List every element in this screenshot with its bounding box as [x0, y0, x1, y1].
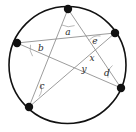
angle-label-b: b	[38, 43, 44, 53]
vertex-dot-left	[13, 39, 21, 47]
star-in-circle-diagram: a b c d e x y	[0, 0, 136, 132]
vertex-dot-lower-right	[117, 84, 125, 92]
angle-label-x: x	[89, 53, 94, 63]
angle-label-a: a	[65, 27, 70, 37]
chord-group	[17, 9, 121, 107]
angle-label-d: d	[104, 68, 110, 78]
angle-label-e: e	[92, 36, 97, 46]
angle-label-c: c	[39, 81, 44, 91]
vertex-dot-upper-right	[111, 29, 119, 37]
geometry-figure-canvas: a b c d e x y	[0, 0, 136, 132]
vertex-dot-top	[64, 5, 72, 13]
vertex-dot-lower-left	[25, 103, 33, 111]
angle-label-y: y	[80, 64, 87, 74]
chord-top-to-lower-left	[29, 9, 68, 107]
angle-arc-b	[30, 45, 33, 56]
